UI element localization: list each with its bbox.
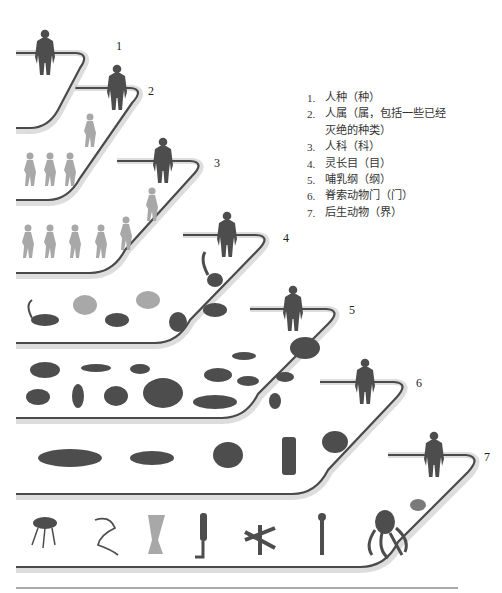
- tunicate-icon: [282, 437, 296, 475]
- horse-icon: [104, 386, 128, 406]
- human-icon: [283, 286, 303, 331]
- kingdom-animals: [32, 499, 426, 558]
- hydroid-icon: [320, 520, 324, 555]
- staircase-figure: [0, 0, 502, 593]
- legend-item: 5.哺乳纲（纲）: [307, 172, 446, 188]
- hominin-icon: [22, 225, 34, 259]
- hominin-icon: [146, 188, 158, 222]
- legend-item: 6.脊索动物门（门）: [307, 188, 446, 204]
- hedgehog-icon: [204, 368, 232, 382]
- mammoth-icon: [143, 378, 183, 408]
- step-1: [16, 53, 86, 131]
- step-label-5: 5: [349, 303, 355, 318]
- legend-item: 7.后生动物（界）: [307, 205, 446, 221]
- legend-item: 2.人属（属，包括一些已经: [307, 106, 446, 122]
- step-label-1: 1: [116, 39, 122, 54]
- sponge-icon: [148, 515, 165, 554]
- human-icon: [217, 212, 237, 257]
- hominin-icon: [120, 217, 132, 251]
- monkey-icon: [31, 314, 59, 326]
- human-icon: [107, 65, 127, 110]
- hominin-icon: [95, 225, 107, 259]
- bushbaby-icon: [203, 303, 227, 317]
- step-label-4: 4: [283, 231, 289, 246]
- gorilla-icon: [169, 312, 187, 332]
- octopus-icon: [375, 510, 395, 534]
- step-7: [16, 455, 477, 570]
- hominin-icon: [44, 225, 56, 259]
- human-icon: [355, 359, 375, 404]
- legend-item: 1.人种（种）: [307, 90, 446, 106]
- kangaroo-icon: [72, 384, 84, 408]
- family-hominids: [22, 188, 158, 259]
- shark-icon: [38, 449, 102, 467]
- whale-icon: [237, 376, 259, 386]
- human-icon: [35, 30, 55, 75]
- hominin-icon: [44, 153, 56, 187]
- step-label-2: 2: [148, 84, 154, 99]
- human-icon: [153, 138, 173, 183]
- legend-item: 4.灵长目（目）: [307, 156, 446, 172]
- rabbit-icon: [269, 393, 281, 409]
- hominin-icon: [64, 153, 76, 187]
- fly-icon: [410, 499, 426, 511]
- tortoise-mammal-icon: [30, 362, 60, 378]
- jellyfish-icon: [33, 517, 57, 529]
- tarsier-icon: [105, 313, 129, 327]
- starfish-icon: [245, 525, 275, 555]
- ostrich-icon: [213, 442, 243, 468]
- legend: 1.人种（种） 2.人属（属，包括一些已经 灭绝的种类） 3.人科（科） 4.灵…: [307, 90, 446, 221]
- frog-icon: [322, 431, 348, 453]
- step-label-7: 7: [484, 450, 490, 465]
- chimpanzee-icon: [136, 291, 160, 309]
- lemur-icon: [207, 273, 223, 287]
- bison-icon: [130, 364, 150, 374]
- lion-icon: [290, 337, 320, 359]
- hominin-icon: [84, 114, 96, 148]
- platypus-icon: [193, 395, 237, 409]
- phylum-chordates: [38, 431, 348, 475]
- aardvark-icon: [26, 389, 50, 405]
- lizard-icon: [130, 451, 174, 465]
- hominin-icon: [24, 153, 36, 187]
- bat-icon: [81, 364, 111, 372]
- hominin-icon: [69, 225, 81, 259]
- step-label-3: 3: [214, 156, 220, 171]
- legend-item: 3.人科（科）: [307, 139, 446, 155]
- mouse-icon: [276, 372, 294, 382]
- taxonomy-diagram: 1 2 3 4 5 6 7 1.人种（种） 2.人属（属，包括一些已经 灭绝的种…: [0, 0, 502, 593]
- orangutan-icon: [73, 295, 97, 315]
- step-label-6: 6: [416, 376, 422, 391]
- human-icon: [424, 432, 444, 477]
- legend-item-continuation: 灭绝的种类）: [307, 123, 446, 139]
- tube-worm-icon: [200, 513, 207, 541]
- worm-icon: [95, 519, 118, 555]
- step-3: [16, 161, 201, 276]
- seal-icon: [232, 352, 256, 360]
